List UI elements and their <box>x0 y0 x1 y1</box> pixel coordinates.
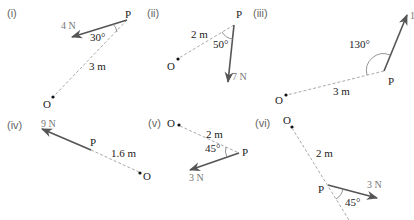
force-label: 4 N <box>61 20 76 31</box>
force-label: 7 N <box>232 71 247 82</box>
point-o-label: O <box>167 117 175 129</box>
distance-label: 3 m <box>333 85 350 97</box>
panel-label: (ii) <box>147 7 159 19</box>
angle-label: 45° <box>205 142 220 154</box>
panel-label: (iii) <box>253 7 268 19</box>
point-p-label: P <box>125 8 131 20</box>
distance-label: 1.6 m <box>111 147 137 159</box>
point-o-label: O <box>143 170 151 182</box>
point-o-label: O <box>167 60 175 72</box>
panel-label: (iv) <box>7 119 22 131</box>
point-o-dot <box>138 171 141 174</box>
point-p-label: P <box>242 146 248 158</box>
panel-label: (i) <box>7 7 17 19</box>
panel-iv: (iv) 9 N P 1.6 m O <box>7 118 151 182</box>
distance-label: 2 m <box>316 147 333 159</box>
force-moment-diagram: (i) P O 4 N 30° 3 m (ii) P O 7 N 2 m 50°… <box>0 0 414 220</box>
panel-ii: (ii) P O 7 N 2 m 50° <box>147 7 247 82</box>
point-p-label: P <box>236 8 242 20</box>
distance-label: 2 m <box>206 128 223 140</box>
distance-label: 3 m <box>89 60 106 72</box>
force-label: 9 N <box>41 118 56 129</box>
force-arrow <box>190 153 239 170</box>
panel-v: (v) O P 2 m 45° 3 N <box>148 117 248 183</box>
force-arrow <box>384 15 407 71</box>
point-p-label: P <box>90 136 96 148</box>
force-label: 3 N <box>367 179 382 190</box>
point-o-dot <box>176 57 179 60</box>
angle-label: 50° <box>213 38 228 50</box>
angle-label: 45° <box>345 196 360 208</box>
angle-arc <box>113 24 117 32</box>
point-o-label: O <box>275 94 283 106</box>
point-o-dot <box>51 95 54 98</box>
distance-line <box>292 128 349 220</box>
panel-i: (i) P O 4 N 30° 3 m <box>7 7 131 110</box>
point-p-label: P <box>318 183 324 195</box>
force-label: 1 <box>410 10 414 21</box>
point-o-label: O <box>43 98 51 110</box>
point-p-label: P <box>388 75 394 87</box>
panel-iii: (iii) P O 130° 3 m 1 <box>253 7 414 106</box>
panel-vi: (vi) O 2 m P 3 N 45° <box>255 114 382 220</box>
force-arrow <box>42 129 91 150</box>
point-o-dot <box>284 93 287 96</box>
angle-arc <box>225 147 227 157</box>
angle-label: 130° <box>349 38 370 50</box>
angle-label: 30° <box>90 31 105 43</box>
point-o-label: O <box>283 114 291 126</box>
force-label: 3 N <box>189 172 204 183</box>
panel-label: (vi) <box>255 117 270 129</box>
panel-label: (v) <box>148 117 161 129</box>
distance-label: 2 m <box>191 28 208 40</box>
angle-arc <box>336 189 343 199</box>
